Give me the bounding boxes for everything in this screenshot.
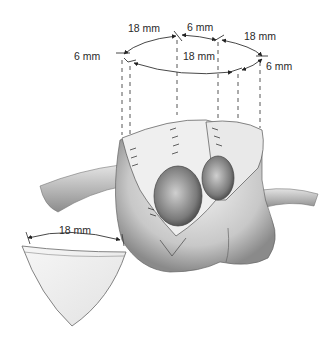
triangular-patch: [22, 232, 126, 326]
label-top-left: 18 mm: [128, 22, 160, 34]
label-patch: 18 mm: [59, 224, 91, 236]
illustration: [0, 0, 333, 346]
aortic-root: [40, 120, 318, 272]
label-top-right: 18 mm: [244, 30, 276, 42]
label-left: 6 mm: [74, 50, 100, 62]
label-top-middle: 6 mm: [187, 21, 213, 33]
label-right: 6 mm: [266, 60, 292, 72]
label-center: 18 mm: [183, 50, 215, 62]
